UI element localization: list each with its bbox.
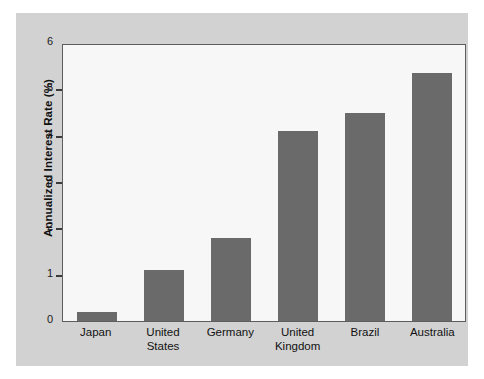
bar-series: [63, 45, 465, 321]
y-tick-label: 0: [23, 314, 53, 325]
x-tick-label-germany: Germany: [197, 325, 264, 353]
x-axis-tick-labels: JapanUnitedStatesGermanyUnitedKingdomBra…: [62, 325, 466, 353]
bar-japan[interactable]: [77, 312, 117, 321]
x-tick-label-brazil: Brazil: [331, 325, 398, 353]
x-tick-label-australia: Australia: [399, 325, 466, 353]
y-axis: 0123456: [16, 44, 62, 322]
y-tick-label: 1: [23, 268, 53, 279]
bar-slot: [130, 45, 197, 321]
y-tick-label: 6: [23, 36, 53, 47]
x-tick-label-united-states: UnitedStates: [129, 325, 196, 353]
bar-germany[interactable]: [211, 238, 251, 321]
x-tick-label-japan: Japan: [62, 325, 129, 353]
bar-slot: [398, 45, 465, 321]
bar-brazil[interactable]: [345, 113, 385, 322]
bar-slot: [197, 45, 264, 321]
y-tick-label: 2: [23, 221, 53, 232]
y-tick-label: 3: [23, 175, 53, 186]
bar-united-states[interactable]: [144, 270, 184, 321]
bar-slot: [63, 45, 130, 321]
plot-area: [62, 44, 466, 322]
bar-slot: [331, 45, 398, 321]
x-tick-label-united-kingdom: UnitedKingdom: [264, 325, 331, 353]
bar-slot: [264, 45, 331, 321]
y-tick-label: 5: [23, 82, 53, 93]
y-tick-label: 4: [23, 129, 53, 140]
figure-canvas: Annualized Interest Rate (%) 0123456 Jap…: [16, 13, 468, 366]
bar-australia[interactable]: [412, 73, 452, 321]
bar-united-kingdom[interactable]: [278, 131, 318, 321]
